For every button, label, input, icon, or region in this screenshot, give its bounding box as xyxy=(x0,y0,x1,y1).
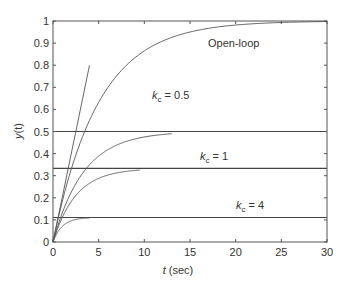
y-tick-label: 0.5 xyxy=(34,126,49,138)
annotation-kc-4: kc = 4 xyxy=(236,199,264,214)
kc-value: = 0.5 xyxy=(162,89,190,101)
y-tick-label: 0.7 xyxy=(34,81,49,93)
series-line xyxy=(53,65,90,242)
y-tick-label: 0.9 xyxy=(34,37,49,49)
y-axis-label: y(t) xyxy=(12,123,24,140)
series-line xyxy=(53,134,172,242)
series-line xyxy=(53,218,90,242)
x-tick-label: 30 xyxy=(321,246,333,258)
y-tick-label: 0.3 xyxy=(34,170,49,182)
y-tick-label: 0.1 xyxy=(34,214,49,226)
y-tick-label: 0.4 xyxy=(34,148,49,160)
y-tick-label: 0.2 xyxy=(34,192,49,204)
x-tick-label: 10 xyxy=(138,246,150,258)
annotation-kc-0-5: kc = 0.5 xyxy=(152,89,189,104)
x-tick-label: 25 xyxy=(275,246,287,258)
y-tick-label: 0.8 xyxy=(34,59,49,71)
annotation-open-loop: Open-loop xyxy=(208,37,259,49)
annotation-kc-1: kc = 1 xyxy=(200,150,228,165)
y-tick-label: 0.6 xyxy=(34,103,49,115)
x-tick-label: 0 xyxy=(50,246,56,258)
x-tick-label: 20 xyxy=(230,246,242,258)
kc-value: = 1 xyxy=(210,150,229,162)
x-tick-label: 15 xyxy=(184,246,196,258)
kc-value: = 4 xyxy=(246,199,265,211)
step-response-chart: 05101520253000.10.20.30.40.50.60.70.80.9… xyxy=(0,0,341,282)
x-axis-label: t (sec) xyxy=(163,264,194,276)
y-tick-label: 1 xyxy=(43,15,49,27)
y-tick-label: 0 xyxy=(43,236,49,248)
ticks: 05101520253000.10.20.30.40.50.60.70.80.9… xyxy=(34,15,333,258)
x-tick-label: 5 xyxy=(96,246,102,258)
plot-area xyxy=(53,22,327,242)
